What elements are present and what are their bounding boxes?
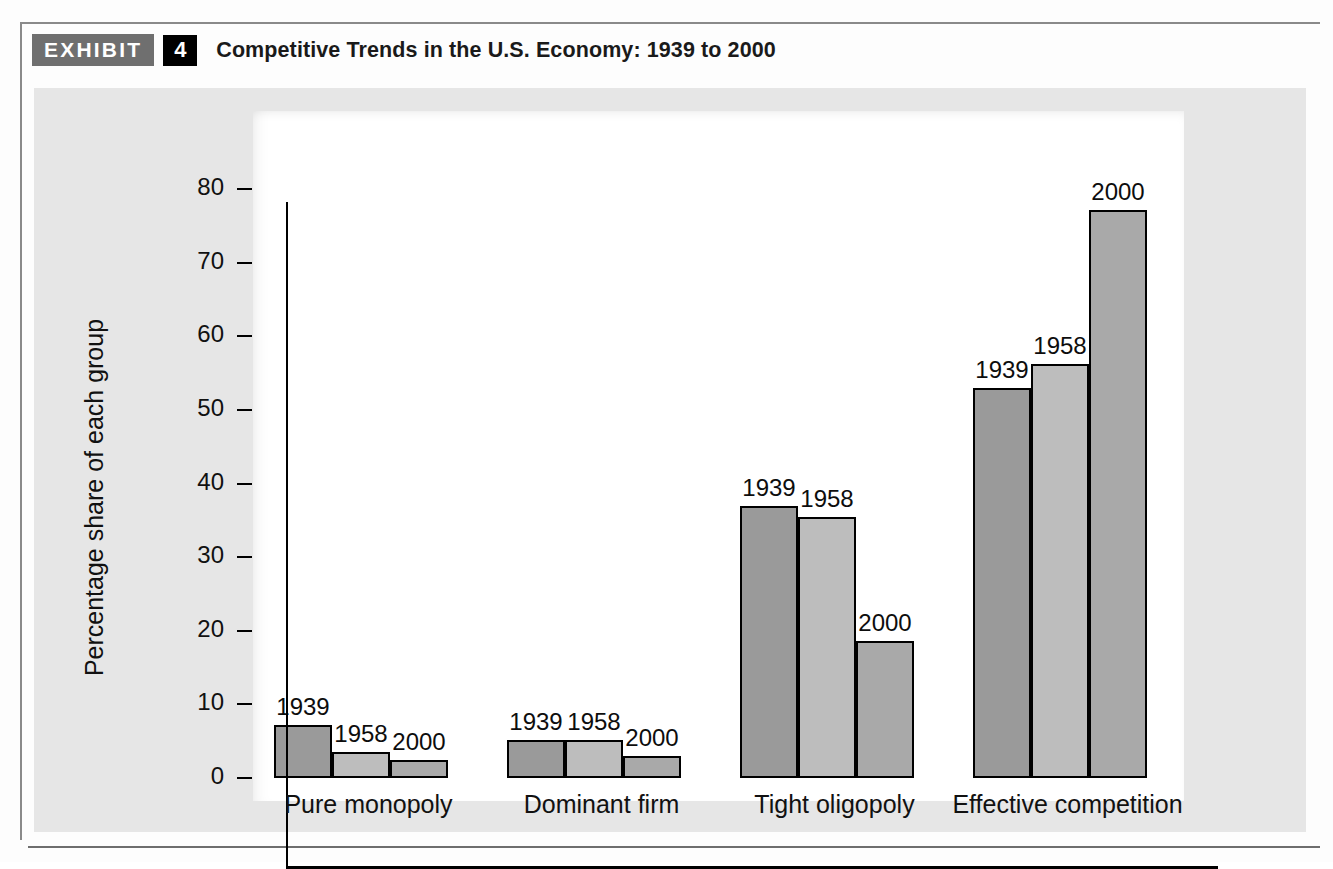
chart-panel: Percentage share of each group 193919582… [34, 88, 1306, 832]
y-axis-tick [237, 483, 252, 485]
y-axis-tick [237, 630, 252, 632]
bar-2000-pure-monopoly [390, 760, 448, 778]
y-axis-tick-label: 30 [164, 541, 224, 569]
bar-label: 2000 [617, 724, 687, 752]
exhibit-title: Competitive Trends in the U.S. Economy: … [216, 38, 776, 63]
bar-label: 2000 [850, 609, 920, 637]
page-footer-rule [28, 846, 1320, 848]
y-axis-tick [237, 409, 252, 411]
y-axis-tick-label: 50 [164, 394, 224, 422]
y-axis-tick-label: 40 [164, 468, 224, 496]
y-axis-tick [237, 703, 252, 705]
bar-2000-dominant-firm [623, 756, 681, 778]
bar-label: 1939 [967, 356, 1037, 384]
exhibit-number-badge: 4 [163, 35, 197, 66]
bar-label: 2000 [1083, 178, 1153, 206]
y-axis-tick-label: 0 [164, 762, 224, 790]
x-axis-category-label: Dominant firm [485, 790, 718, 819]
y-axis-tick [237, 188, 252, 190]
bar-1939-tight-oligopoly [740, 506, 798, 778]
bar-label: 1939 [268, 693, 338, 721]
bar-label: 1958 [792, 485, 862, 513]
bar-2000-tight-oligopoly [856, 641, 914, 778]
bar-1939-effective-competition [973, 388, 1031, 778]
y-axis-line [286, 202, 288, 868]
bar-1939-pure-monopoly [274, 725, 332, 778]
y-axis-tick [237, 556, 252, 558]
x-axis-category-label: Effective competition [951, 790, 1184, 819]
page-border-left [20, 22, 22, 840]
y-axis-tick [237, 335, 252, 337]
y-axis-tick [237, 777, 252, 779]
y-axis-tick-label: 70 [164, 247, 224, 275]
y-axis-tick-label: 20 [164, 615, 224, 643]
bar-label: 1958 [1025, 332, 1095, 360]
x-axis-category-label: Pure monopoly [252, 790, 485, 819]
bar-1958-pure-monopoly [332, 752, 390, 778]
y-axis-tick-label: 80 [164, 173, 224, 201]
y-axis-tick [237, 262, 252, 264]
bar-1939-dominant-firm [507, 740, 565, 778]
page-border-top [20, 22, 1320, 24]
y-axis-tick-label: 10 [164, 688, 224, 716]
bar-label: 2000 [384, 728, 454, 756]
bar-2000-effective-competition [1089, 210, 1147, 778]
bar-1958-effective-competition [1031, 364, 1089, 778]
bar-1958-dominant-firm [565, 740, 623, 778]
bars-layer: 1939195820001939195820001939195820001939… [34, 88, 1306, 832]
y-axis-tick-label: 60 [164, 320, 224, 348]
bar-1958-tight-oligopoly [798, 517, 856, 778]
x-axis-category-label: Tight oligopoly [718, 790, 951, 819]
exhibit-header: EXHIBIT 4 Competitive Trends in the U.S.… [32, 33, 776, 67]
exhibit-badge: EXHIBIT [32, 34, 154, 66]
